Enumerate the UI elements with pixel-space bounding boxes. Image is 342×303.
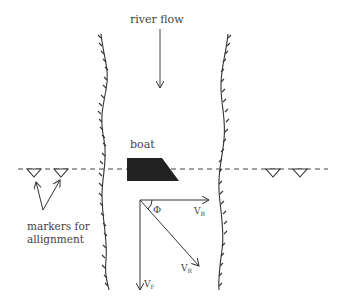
angle-arc bbox=[148, 200, 152, 209]
vr-label: VR bbox=[180, 263, 193, 274]
pointer-arrow-icon bbox=[43, 180, 60, 210]
vb-label: VB bbox=[193, 206, 206, 217]
markers-label-line2: allignment bbox=[27, 233, 85, 245]
vf-label: VF bbox=[143, 279, 155, 290]
marker-triangle-icon bbox=[293, 169, 307, 177]
river-crossing-diagram: river flow boat markers for allignment Φ… bbox=[0, 0, 342, 303]
angle-phi-label: Φ bbox=[153, 204, 161, 215]
left-riverbank bbox=[98, 34, 109, 290]
marker-triangle-icon bbox=[27, 169, 41, 177]
markers-label-line1: markers for bbox=[27, 220, 91, 232]
river-flow-label: river flow bbox=[130, 13, 184, 26]
right-riverbank bbox=[219, 34, 231, 290]
boat-label: boat bbox=[130, 138, 155, 151]
vr-vector-arrow bbox=[140, 200, 199, 266]
marker-triangle-icon bbox=[54, 169, 68, 177]
marker-triangle-icon bbox=[266, 169, 280, 177]
pointer-arrow-icon bbox=[36, 182, 43, 210]
